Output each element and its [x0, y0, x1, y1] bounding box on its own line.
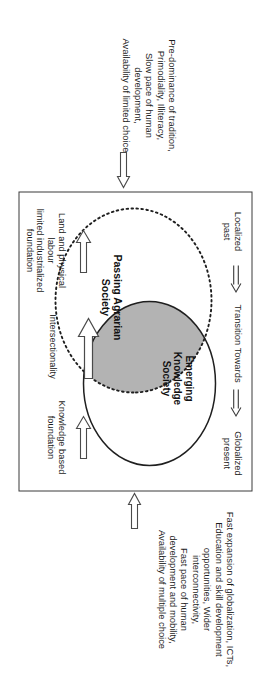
knowledge-society-label: Emerging Knowledge Society — [160, 330, 195, 426]
axis-label-transition-towards: Transition Towards — [232, 300, 243, 386]
axis-label-localized-past: Localized past — [221, 202, 243, 260]
label-land-and-physical-labour: Land and physical labour limited industr… — [23, 204, 66, 296]
axis-label-globalized-present: Globalized present — [221, 424, 243, 482]
agrarian-society-label: Passing Agrarian Society — [99, 245, 123, 349]
hollow-arrow-left-icon-land-labour — [75, 228, 91, 272]
hollow-arrow-left-icon-intersectionality — [77, 316, 99, 378]
transition-axis: Localized past Transition Towards Global… — [215, 196, 245, 488]
double-arrow-right-icon — [230, 264, 241, 294]
label-knowledge-based-foundation: Knowledge based foundation — [44, 392, 66, 482]
double-arrow-right-icon-2 — [230, 388, 241, 418]
label-intersectionality: Intersectionality — [46, 306, 57, 386]
rotated-figure-container: Passing Agrarian Society Emerging Knowle… — [0, 0, 269, 683]
hollow-arrow-left-icon-knowledge-based — [75, 414, 91, 458]
